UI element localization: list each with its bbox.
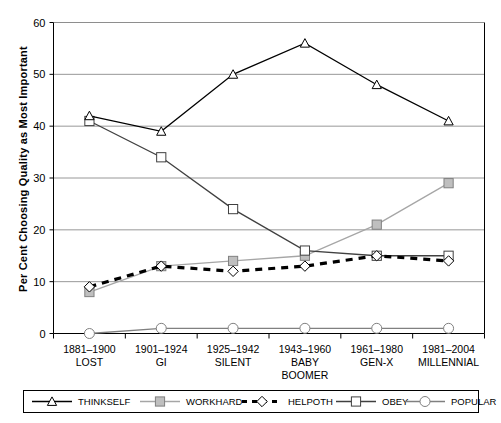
series-line [89,328,448,333]
data-marker-diamond [300,261,310,271]
x-category-label: LOST [76,356,104,368]
data-marker-triangle [85,111,94,120]
y-tick-label: 40 [33,120,45,132]
x-category-label: 1901–1924 [135,343,188,355]
y-tick-label: 60 [33,17,45,29]
x-category-label: 1961–1980 [350,343,403,355]
y-tick-label: 0 [39,328,45,340]
data-marker-square [444,179,453,188]
x-category-label: 1925–1942 [207,343,260,355]
x-axis-ticks [54,334,485,339]
data-marker-circle [372,323,382,333]
series-workhard [85,179,453,297]
y-tick-label: 30 [33,172,45,184]
series-line [89,183,448,292]
y-tick-label: 20 [33,224,45,236]
data-marker-square [300,246,309,255]
x-axis-labels: 1881–1900LOST1901–1924GI1925–1942SILENT1… [63,343,479,381]
data-marker-circle [156,323,166,333]
line-chart: 01020304050601881–1900LOST1901–1924GI192… [0,0,501,423]
x-category-label: 1881–1900 [63,343,116,355]
data-marker-circle [84,329,94,339]
data-marker-square [155,397,164,406]
legend: THINKSELFWORKHARDHELPOTHOBEYPOPULAR [24,391,497,413]
data-marker-circle [300,323,310,333]
series-thinkself [85,39,453,136]
legend-label: POPULAR [451,396,497,407]
data-marker-triangle [300,39,309,48]
x-category-label: GEN-X [360,356,393,368]
data-marker-square [228,256,237,265]
data-marker-circle [420,397,430,407]
data-marker-triangle [444,116,453,125]
x-category-label: SILENT [215,356,252,368]
x-category-label: 1981–2004 [422,343,475,355]
data-marker-square [228,205,237,214]
y-axis-ticks: 0102030405060 [33,17,53,340]
series-obey [85,116,453,260]
series-line [89,121,448,256]
chart-container: Per Cent Choosing Quality as Most Import… [0,0,501,423]
x-category-label: BOOMER [282,369,329,381]
legend-label: WORKHARD [186,396,243,407]
y-axis-label: Per Cent Choosing Quality as Most Import… [17,24,29,314]
x-category-label: BABY [291,356,319,368]
series-helpoth [84,251,454,292]
data-marker-circle [444,323,454,333]
legend-label: HELPOTH [288,396,333,407]
data-marker-triangle [372,80,381,89]
gridlines [54,23,485,334]
y-tick-label: 10 [33,276,45,288]
legend-label: THINKSELF [78,396,130,407]
x-category-label: GI [156,356,167,368]
series-line [89,43,448,131]
series-line [89,256,448,287]
y-tick-label: 50 [33,68,45,80]
data-marker-square [351,397,360,406]
x-category-label: MILLENNIAL [418,356,479,368]
legend-item-workhard[interactable]: WORKHARD [140,396,243,407]
x-category-label: 1943–1960 [279,343,332,355]
data-marker-diamond [228,266,238,276]
data-marker-square [372,220,381,229]
data-marker-circle [228,323,238,333]
data-marker-square [157,153,166,162]
